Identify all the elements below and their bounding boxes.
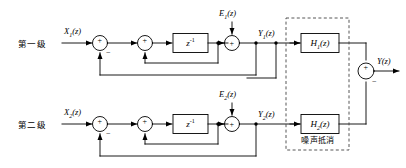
error-e1-label: E1(z) <box>219 8 236 20</box>
noise-cancellation-caption: 噪声抵消 <box>289 134 347 145</box>
output-y2-label: Y2(z) <box>258 109 275 121</box>
sum1b-plus-sign: + <box>143 37 148 45</box>
delay-block-1-label: z-1 <box>173 37 208 48</box>
input-x2-arg: (z) <box>72 107 81 117</box>
output-y1-arg: (z) <box>266 28 275 38</box>
sum1a-minus-sign: − <box>106 49 111 57</box>
final-output-arg: (z) <box>382 56 391 66</box>
sum2c-plus-sign: + <box>230 121 235 129</box>
filter-h1-arg: (z) <box>320 38 330 48</box>
delay-block-2-label: z-1 <box>173 118 208 129</box>
stage-1-label: 第一级 <box>18 37 46 49</box>
error-e1-arg: (z) <box>227 8 236 18</box>
output-y1-label: Y1(z) <box>258 28 275 40</box>
output-y2-arg: (z) <box>266 109 275 119</box>
final-output-label: Y(z) <box>377 56 391 66</box>
filter-h2-arg: (z) <box>320 119 330 129</box>
sum2a-minus-sign: − <box>106 130 111 138</box>
diagram-canvas: 第一级 第二级 X1(z) X2(z) E1(z) E2(z) Y1(z) Y2… <box>0 0 406 168</box>
sum1a-plus-sign: + <box>98 37 103 45</box>
node-tap-y1-interstage <box>274 41 277 44</box>
filter-h2-label: H2(z) <box>301 119 339 131</box>
input-x1-label: X1(z) <box>64 26 81 38</box>
delay-1-exponent: -1 <box>190 37 195 43</box>
delay-2-exponent: -1 <box>190 118 195 124</box>
filter-h1-label: H1(z) <box>301 38 339 50</box>
sum2b-plus-sign: + <box>143 118 148 126</box>
output-sum-minus-sign: − <box>372 78 377 86</box>
input-x1-arg: (z) <box>72 26 81 36</box>
error-e2-label: E2(z) <box>219 89 236 101</box>
error-e2-arg: (z) <box>227 89 236 99</box>
output-sum-plus-sign: + <box>364 64 369 72</box>
input-x2-label: X2(z) <box>64 107 81 119</box>
stage-2-label: 第二级 <box>18 118 46 130</box>
sum2a-plus-sign: + <box>98 118 103 126</box>
sum1c-plus-sign: + <box>230 40 235 48</box>
